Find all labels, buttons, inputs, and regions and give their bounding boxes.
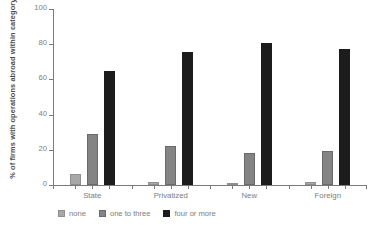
x-axis-label-state: State bbox=[83, 191, 101, 200]
x-axis-label-privatized: Privatized bbox=[154, 191, 188, 200]
y-axis-tick-label: 80 bbox=[39, 38, 47, 47]
x-axis-group-separator-tick bbox=[132, 185, 133, 189]
y-axis-label: % of firms with operations abroad within… bbox=[8, 11, 18, 179]
x-axis-tick bbox=[171, 185, 172, 189]
bar-state-four-or-more bbox=[104, 71, 115, 185]
x-axis-tick bbox=[92, 185, 93, 189]
x-axis-label-new: New bbox=[241, 191, 257, 200]
bar-new-four-or-more bbox=[261, 43, 272, 185]
y-axis-tick bbox=[49, 79, 53, 80]
bar-state-one-to-three bbox=[87, 134, 98, 185]
x-axis-label-foreign: Foreign bbox=[315, 191, 341, 200]
chart-figure: % of firms with operations abroad within… bbox=[0, 0, 375, 229]
legend-item-none[interactable]: none bbox=[58, 209, 86, 218]
bar-state-none bbox=[70, 174, 81, 185]
bar-foreign-none bbox=[305, 182, 316, 185]
bar-foreign-one-to-three bbox=[322, 151, 333, 185]
legend-swatch-icon bbox=[163, 210, 170, 217]
y-axis-tick bbox=[49, 44, 53, 45]
legend-label: four or more bbox=[174, 209, 215, 218]
x-axis-tick bbox=[109, 185, 110, 189]
y-axis-tick-label: 100 bbox=[34, 3, 47, 12]
y-axis-label-container: % of firms with operations abroad within… bbox=[0, 0, 26, 190]
x-axis-tick bbox=[188, 185, 189, 189]
y-axis-tick bbox=[49, 115, 53, 116]
x-axis-tick bbox=[154, 185, 155, 189]
x-axis-tick bbox=[75, 185, 76, 189]
legend-label: one to three bbox=[110, 209, 151, 218]
x-axis-tick bbox=[328, 185, 329, 189]
x-axis-tick bbox=[232, 185, 233, 189]
bar-new-one-to-three bbox=[244, 153, 255, 185]
y-axis-tick bbox=[49, 150, 53, 151]
y-axis-line bbox=[53, 9, 54, 185]
bar-new-none bbox=[227, 183, 238, 185]
legend-swatch-icon bbox=[58, 210, 65, 217]
legend-label: none bbox=[69, 209, 86, 218]
x-axis-group-separator-tick bbox=[289, 185, 290, 189]
x-axis-group-separator-tick bbox=[210, 185, 211, 189]
plot-area: 020406080100 StatePrivatizedNewForeign bbox=[53, 9, 367, 185]
bar-privatized-none bbox=[148, 182, 159, 185]
x-axis-group-separator-tick bbox=[53, 185, 54, 189]
legend-swatch-icon bbox=[99, 210, 106, 217]
y-axis-tick-label: 40 bbox=[39, 109, 47, 118]
y-axis-tick-label: 60 bbox=[39, 73, 47, 82]
x-axis-tick bbox=[311, 185, 312, 189]
legend-item-one-to-three[interactable]: one to three bbox=[99, 209, 151, 218]
bar-privatized-four-or-more bbox=[182, 52, 193, 185]
bar-privatized-one-to-three bbox=[165, 146, 176, 185]
x-axis-tick bbox=[366, 185, 367, 189]
x-axis-tick bbox=[266, 185, 267, 189]
x-axis-tick bbox=[345, 185, 346, 189]
y-axis-tick bbox=[49, 9, 53, 10]
bar-foreign-four-or-more bbox=[339, 49, 350, 185]
x-axis-tick bbox=[249, 185, 250, 189]
y-axis-tick-label: 20 bbox=[39, 144, 47, 153]
chart-legend: noneone to threefour or more bbox=[58, 209, 216, 218]
y-axis-tick-label: 0 bbox=[43, 179, 47, 188]
legend-item-four-or-more[interactable]: four or more bbox=[163, 209, 215, 218]
